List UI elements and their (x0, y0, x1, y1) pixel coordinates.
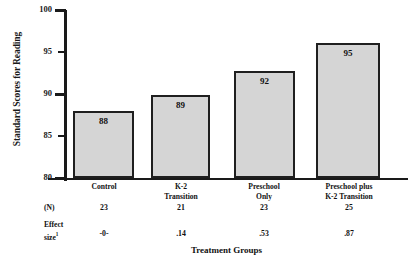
y-tick-label-95: 95 (24, 47, 52, 56)
category-label-preschool-plus-k2: Preschool plus K-2 Transition (310, 182, 388, 201)
effect-size-footnote-marker: 1 (56, 231, 59, 237)
y-tick-80 (55, 177, 66, 180)
category-label-preschool-only-line1: Preschool (228, 182, 300, 192)
x-axis-title: Treatment Groups (0, 245, 417, 255)
category-label-preschool-plus-k2-line2: K-2 Transition (310, 192, 388, 202)
y-tick-label-90: 90 (24, 89, 52, 98)
y-tick-label-100: 100 (24, 5, 52, 14)
n-value-k2-transition: 21 (145, 203, 217, 212)
bar-value-preschool-only: 92 (236, 76, 293, 86)
y-tick-label-100-wrap: 100 (20, 5, 52, 15)
bar-value-preschool-plus-k2: 95 (318, 48, 378, 58)
bar-value-k2-transition: 89 (153, 100, 208, 110)
category-label-preschool-only: Preschool Only (228, 182, 300, 201)
category-label-k2-transition-line1: K-2 (145, 182, 217, 192)
y-tick-label-80-wrap: 80 (20, 173, 52, 183)
y-tick-label-90-wrap: 90 (20, 89, 52, 99)
n-value-control: 23 (68, 203, 140, 212)
effect-size-label-line2: size (44, 232, 56, 241)
effect-size-value-control: -0- (68, 229, 140, 238)
y-tick-label-85-wrap: 85 (20, 131, 52, 141)
bar-preschool-only: 92 (234, 71, 295, 178)
y-tick-95 (58, 51, 65, 53)
category-label-preschool-plus-k2-line1: Preschool plus (310, 182, 388, 192)
bar-value-control: 88 (75, 116, 132, 126)
y-tick-85 (58, 135, 65, 137)
n-value-preschool-only: 23 (228, 203, 300, 212)
x-axis-line (48, 178, 408, 180)
category-label-control: Control (68, 182, 140, 192)
effect-size-value-k2-transition: .14 (145, 229, 217, 238)
bar-chart-figure: Standard Scores for Reading 100 95 90 85… (0, 0, 417, 263)
y-tick-label-95-wrap: 95 (20, 47, 52, 57)
y-tick-90 (55, 93, 66, 96)
bar-control: 88 (73, 111, 134, 178)
category-label-k2-transition-line2: Transition (145, 192, 217, 202)
effect-size-value-preschool-only: .53 (228, 229, 300, 238)
category-label-preschool-only-line2: Only (228, 192, 300, 202)
effect-size-value-preschool-plus-k2: .87 (310, 229, 388, 238)
plot-area: 100 95 90 85 80 88 89 92 95 (0, 0, 417, 263)
y-tick-100 (55, 9, 66, 12)
category-label-control-line1: Control (68, 182, 140, 192)
category-label-k2-transition: K-2 Transition (145, 182, 217, 201)
y-tick-label-80: 80 (24, 173, 52, 182)
y-tick-label-85: 85 (24, 131, 52, 140)
bar-k2-transition: 89 (151, 95, 210, 178)
n-value-preschool-plus-k2: 25 (310, 203, 388, 212)
bar-preschool-plus-k2: 95 (316, 43, 380, 178)
